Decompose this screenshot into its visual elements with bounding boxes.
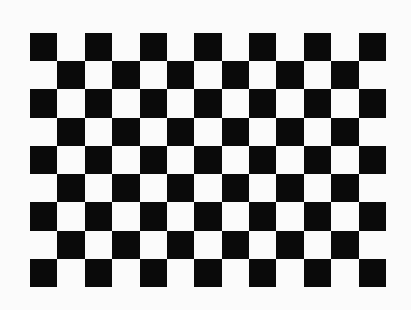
- board-cell-black: [304, 202, 331, 230]
- board-cell-black: [194, 89, 221, 117]
- board-cell-black: [167, 174, 194, 202]
- board-cell-black: [304, 259, 331, 287]
- board-cell-black: [140, 259, 167, 287]
- board-cell-white: [249, 118, 276, 146]
- board-cell-white: [112, 33, 139, 61]
- board-cell-black: [359, 146, 386, 174]
- board-cell-black: [331, 118, 358, 146]
- board-cell-black: [167, 61, 194, 89]
- board-cell-white: [85, 231, 112, 259]
- board-cell-black: [194, 146, 221, 174]
- board-cell-white: [359, 61, 386, 89]
- board-cell-white: [57, 89, 84, 117]
- board-cell-white: [304, 61, 331, 89]
- board-cell-black: [276, 174, 303, 202]
- board-cell-black: [331, 231, 358, 259]
- board-cell-white: [140, 118, 167, 146]
- board-cell-black: [140, 89, 167, 117]
- board-cell-black: [276, 61, 303, 89]
- board-cell-white: [276, 259, 303, 287]
- board-cell-white: [57, 202, 84, 230]
- board-cell-black: [167, 118, 194, 146]
- board-cell-white: [359, 231, 386, 259]
- board-cell-black: [85, 202, 112, 230]
- board-cell-white: [222, 259, 249, 287]
- board-cell-black: [331, 174, 358, 202]
- board-cell-black: [249, 146, 276, 174]
- board-cell-white: [331, 89, 358, 117]
- board-cell-white: [85, 174, 112, 202]
- board-cell-black: [30, 202, 57, 230]
- board-cell-white: [194, 231, 221, 259]
- board-cell-black: [112, 118, 139, 146]
- board-cell-white: [85, 61, 112, 89]
- board-cell-black: [194, 33, 221, 61]
- board-cell-white: [359, 118, 386, 146]
- board-cell-black: [112, 174, 139, 202]
- board-cell-black: [167, 231, 194, 259]
- board-cell-black: [359, 89, 386, 117]
- board-cell-black: [140, 202, 167, 230]
- board-cell-black: [112, 61, 139, 89]
- board-cell-white: [30, 231, 57, 259]
- board-cell-black: [85, 33, 112, 61]
- board-cell-white: [304, 231, 331, 259]
- board-cell-black: [112, 231, 139, 259]
- board-cell-white: [222, 202, 249, 230]
- board-cell-white: [167, 89, 194, 117]
- board-cell-white: [140, 231, 167, 259]
- board-cell-white: [57, 33, 84, 61]
- board-cell-white: [30, 174, 57, 202]
- board-cell-white: [112, 89, 139, 117]
- board-cell-white: [57, 259, 84, 287]
- board-cell-black: [304, 146, 331, 174]
- board-cell-white: [167, 33, 194, 61]
- board-cell-white: [276, 202, 303, 230]
- board-cell-black: [222, 61, 249, 89]
- board-cell-white: [304, 118, 331, 146]
- board-cell-white: [194, 174, 221, 202]
- board-cell-black: [249, 202, 276, 230]
- board-cell-black: [30, 259, 57, 287]
- board-cell-black: [222, 174, 249, 202]
- board-cell-black: [57, 61, 84, 89]
- board-cell-white: [222, 146, 249, 174]
- board-cell-white: [331, 259, 358, 287]
- board-cell-white: [112, 259, 139, 287]
- board-cell-white: [167, 146, 194, 174]
- board-cell-black: [249, 259, 276, 287]
- board-cell-white: [167, 259, 194, 287]
- board-cell-black: [85, 146, 112, 174]
- board-cell-white: [331, 146, 358, 174]
- board-cell-black: [57, 174, 84, 202]
- board-cell-black: [331, 61, 358, 89]
- board-cell-black: [194, 202, 221, 230]
- board-cell-black: [85, 89, 112, 117]
- board-cell-black: [304, 33, 331, 61]
- board-cell-white: [249, 231, 276, 259]
- checkerboard: [30, 33, 386, 287]
- board-cell-white: [304, 174, 331, 202]
- board-cell-white: [140, 174, 167, 202]
- board-cell-black: [276, 231, 303, 259]
- board-cell-black: [249, 33, 276, 61]
- board-cell-white: [249, 61, 276, 89]
- board-cell-black: [30, 89, 57, 117]
- board-cell-white: [85, 118, 112, 146]
- board-cell-white: [194, 118, 221, 146]
- board-cell-white: [30, 61, 57, 89]
- board-cell-black: [30, 146, 57, 174]
- board-cell-white: [30, 118, 57, 146]
- board-cell-white: [222, 33, 249, 61]
- board-cell-black: [222, 231, 249, 259]
- board-cell-black: [359, 202, 386, 230]
- board-cell-black: [222, 118, 249, 146]
- board-cell-white: [249, 174, 276, 202]
- board-cell-black: [140, 146, 167, 174]
- board-cell-white: [57, 146, 84, 174]
- board-cell-white: [167, 202, 194, 230]
- board-cell-black: [194, 259, 221, 287]
- board-cell-white: [331, 202, 358, 230]
- board-cell-black: [85, 259, 112, 287]
- board-cell-white: [359, 174, 386, 202]
